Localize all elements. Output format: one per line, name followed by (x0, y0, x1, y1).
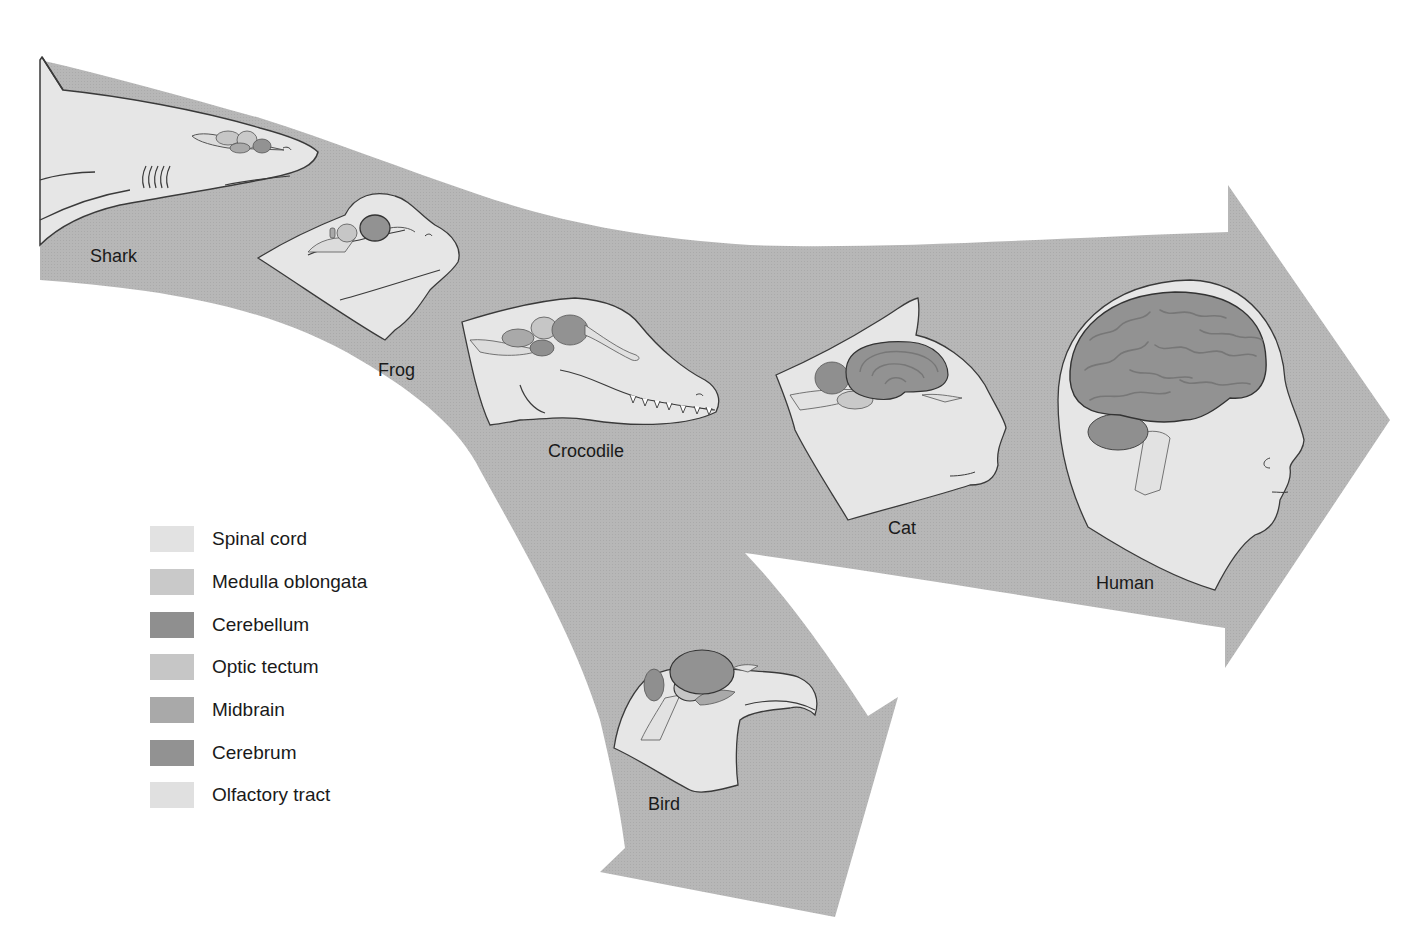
label-cat: Cat (888, 518, 916, 539)
legend-label: Cerebellum (212, 614, 309, 636)
swatch-cerebellum (150, 612, 194, 638)
legend-item-cerebellum: Cerebellum (150, 603, 367, 646)
swatch-spinal-cord (150, 526, 194, 552)
swatch-optic-tectum (150, 654, 194, 680)
label-bird: Bird (648, 794, 680, 815)
legend-label: Olfactory tract (212, 784, 330, 806)
legend-item-spinal-cord: Spinal cord (150, 518, 367, 561)
legend-label: Medulla oblongata (212, 571, 367, 593)
legend-item-olfactory-tract: Olfactory tract (150, 774, 367, 817)
legend: Spinal cord Medulla oblongata Cerebellum… (150, 518, 367, 817)
swatch-midbrain (150, 697, 194, 723)
legend-item-cerebrum: Cerebrum (150, 731, 367, 774)
legend-item-medulla-oblongata: Medulla oblongata (150, 561, 367, 604)
label-human: Human (1096, 573, 1154, 594)
legend-label: Cerebrum (212, 742, 296, 764)
label-frog: Frog (378, 360, 415, 381)
swatch-olfactory-tract (150, 782, 194, 808)
legend-label: Midbrain (212, 699, 285, 721)
label-shark: Shark (90, 246, 137, 267)
legend-item-midbrain: Midbrain (150, 689, 367, 732)
legend-label: Optic tectum (212, 656, 319, 678)
swatch-medulla-oblongata (150, 569, 194, 595)
legend-label: Spinal cord (212, 528, 307, 550)
legend-item-optic-tectum: Optic tectum (150, 646, 367, 689)
label-crocodile: Crocodile (548, 441, 624, 462)
swatch-cerebrum (150, 740, 194, 766)
